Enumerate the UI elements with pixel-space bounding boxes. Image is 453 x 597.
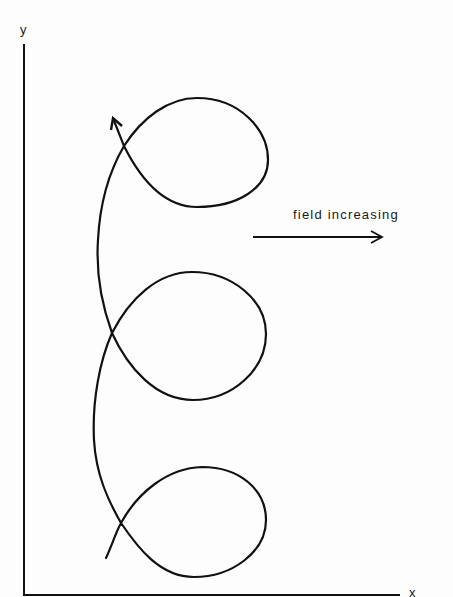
particle-trajectory	[94, 98, 268, 577]
field-increasing-label: field increasing	[293, 207, 399, 222]
diagram-canvas	[0, 0, 453, 597]
y-axis-label: y	[20, 22, 27, 37]
x-axis-label: x	[409, 585, 416, 597]
